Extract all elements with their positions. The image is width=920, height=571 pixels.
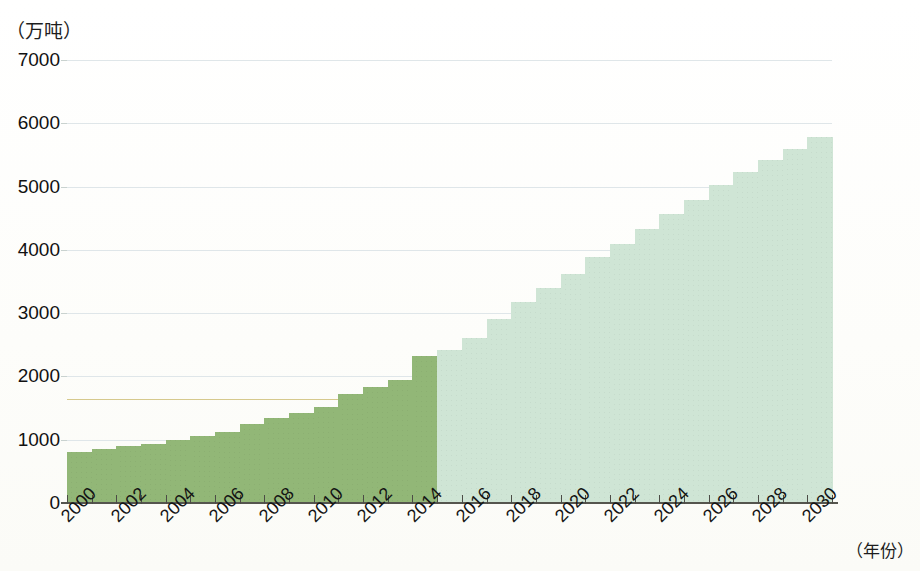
y-tick-label: 7000	[0, 49, 60, 71]
y-tick-mark	[61, 250, 67, 251]
y-axis-tick-labels: 01000200030004000500060007000	[0, 60, 60, 503]
y-tick-label: 4000	[0, 239, 60, 261]
bar-2025	[684, 200, 709, 503]
bar-2024	[659, 214, 684, 503]
bar-2018	[511, 302, 536, 503]
x-axis-label: （年份）	[846, 537, 914, 562]
bar-series	[67, 60, 832, 503]
y-tick-mark	[61, 313, 67, 314]
bar-2016	[462, 338, 487, 503]
y-tick-label: 2000	[0, 365, 60, 387]
y-tick-mark	[61, 123, 67, 124]
y-axis-unit-label: （万吨）	[6, 16, 82, 43]
y-tick-mark	[61, 376, 67, 377]
bar-2009	[289, 413, 314, 503]
bar-2022	[610, 244, 635, 503]
bar-2017	[487, 319, 512, 503]
bar-2029	[783, 149, 808, 503]
bar-2030	[807, 137, 832, 503]
y-tick-label: 1000	[0, 429, 60, 451]
bar-2011	[338, 394, 363, 503]
y-tick-label: 5000	[0, 176, 60, 198]
plot-area	[67, 60, 832, 503]
bar-2027	[733, 172, 758, 503]
bar-2013	[388, 380, 413, 503]
bar-2023	[635, 229, 660, 503]
bar-2014	[412, 356, 437, 503]
y-tick-mark	[61, 60, 67, 61]
bar-2021	[585, 257, 610, 503]
y-tick-label: 0	[0, 492, 60, 514]
bar-2015	[437, 350, 462, 503]
y-tick-label: 6000	[0, 112, 60, 134]
bar-2019	[536, 288, 561, 503]
bar-2020	[561, 274, 586, 503]
y-tick-mark	[61, 187, 67, 188]
bar-2028	[758, 160, 783, 503]
y-tick-label: 3000	[0, 302, 60, 324]
bar-chart: （万吨） （年份） 01000200030004000500060007000 …	[0, 0, 920, 571]
y-tick-mark	[61, 440, 67, 441]
bar-2026	[709, 185, 734, 503]
bar-2007	[240, 424, 265, 503]
